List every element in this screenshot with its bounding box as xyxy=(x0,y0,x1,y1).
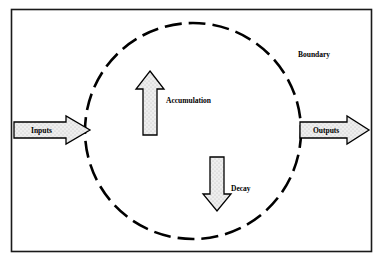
outputs-label: Outputs xyxy=(313,126,339,135)
accumulation-label: Accumulation xyxy=(166,96,212,105)
diagram-canvas: Boundary Inputs Outputs Accumulation Dec… xyxy=(0,0,383,259)
inputs-label: Inputs xyxy=(31,126,52,135)
decay-label: Decay xyxy=(231,184,251,193)
system-boundary-diagram: Boundary Inputs Outputs Accumulation Dec… xyxy=(0,0,383,259)
boundary-label: Boundary xyxy=(298,50,330,59)
